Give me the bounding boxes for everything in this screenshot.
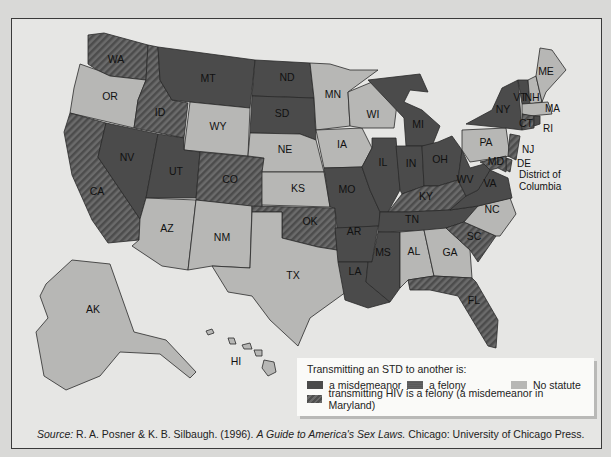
svg-text:NV: NV xyxy=(120,151,135,163)
svg-text:IL: IL xyxy=(379,156,388,168)
legend-item-hiv: transmitting HIV is a felony (a misdemea… xyxy=(307,387,584,411)
svg-text:WV: WV xyxy=(457,173,474,185)
dc-label-line1: District of xyxy=(519,169,561,180)
svg-text:CT: CT xyxy=(519,117,534,129)
legend-title: Transmitting an STD to another is: xyxy=(307,363,584,375)
svg-text:NH: NH xyxy=(524,91,539,103)
svg-text:MO: MO xyxy=(339,183,356,195)
svg-text:SD: SD xyxy=(275,107,290,119)
svg-text:NC: NC xyxy=(484,203,500,215)
svg-text:MI: MI xyxy=(412,118,424,130)
hiv-swatch-icon xyxy=(307,395,322,403)
svg-text:OH: OH xyxy=(432,153,448,165)
state-HI xyxy=(206,329,276,376)
svg-text:HI: HI xyxy=(231,355,242,367)
svg-text:WA: WA xyxy=(108,53,125,65)
svg-text:AZ: AZ xyxy=(160,222,174,234)
svg-text:NJ: NJ xyxy=(522,144,534,155)
state-IN xyxy=(396,146,424,194)
svg-text:LA: LA xyxy=(349,265,362,277)
svg-text:AK: AK xyxy=(86,303,100,315)
svg-text:KY: KY xyxy=(419,190,433,202)
map-legend: Transmitting an STD to another is: a mis… xyxy=(297,358,594,416)
svg-text:VA: VA xyxy=(483,177,496,189)
svg-text:MD: MD xyxy=(488,155,505,167)
svg-text:MT: MT xyxy=(200,72,216,84)
state-FL xyxy=(408,276,498,348)
svg-text:CO: CO xyxy=(222,173,238,185)
svg-text:AR: AR xyxy=(347,225,362,237)
state-NJ xyxy=(508,134,520,160)
state-AK xyxy=(36,260,196,390)
svg-text:OR: OR xyxy=(102,90,118,102)
state-NY xyxy=(466,80,522,130)
svg-text:OK: OK xyxy=(302,215,317,227)
svg-text:PA: PA xyxy=(479,136,492,148)
svg-text:TX: TX xyxy=(286,269,299,281)
svg-text:ND: ND xyxy=(279,71,295,83)
svg-text:MN: MN xyxy=(325,88,341,100)
source-citation: Source: R. A. Posner & K. B. Silbaugh. (… xyxy=(37,428,585,440)
svg-text:GA: GA xyxy=(442,246,457,258)
svg-text:DE: DE xyxy=(517,158,531,169)
legend-row-2: transmitting HIV is a felony (a misdemea… xyxy=(307,392,584,406)
svg-text:SC: SC xyxy=(467,230,482,242)
svg-text:MS: MS xyxy=(375,246,391,258)
svg-text:MA: MA xyxy=(545,103,560,114)
dc-label-line2: Columbia xyxy=(519,181,562,192)
svg-text:FL: FL xyxy=(468,294,480,306)
svg-text:NM: NM xyxy=(214,231,230,243)
svg-text:CA: CA xyxy=(90,185,105,197)
svg-text:AL: AL xyxy=(408,245,421,257)
svg-text:IA: IA xyxy=(337,138,347,150)
svg-text:NY: NY xyxy=(496,103,511,115)
svg-text:UT: UT xyxy=(169,165,184,177)
svg-text:NE: NE xyxy=(278,143,293,155)
svg-text:WI: WI xyxy=(367,108,380,120)
svg-text:ID: ID xyxy=(155,106,166,118)
state-DE xyxy=(506,158,512,172)
svg-text:IN: IN xyxy=(406,157,417,169)
svg-text:RI: RI xyxy=(543,123,553,134)
svg-text:ME: ME xyxy=(538,65,554,77)
state-RI xyxy=(534,116,540,126)
svg-text:WY: WY xyxy=(210,120,227,132)
svg-text:TN: TN xyxy=(405,213,419,225)
svg-text:KS: KS xyxy=(291,182,305,194)
